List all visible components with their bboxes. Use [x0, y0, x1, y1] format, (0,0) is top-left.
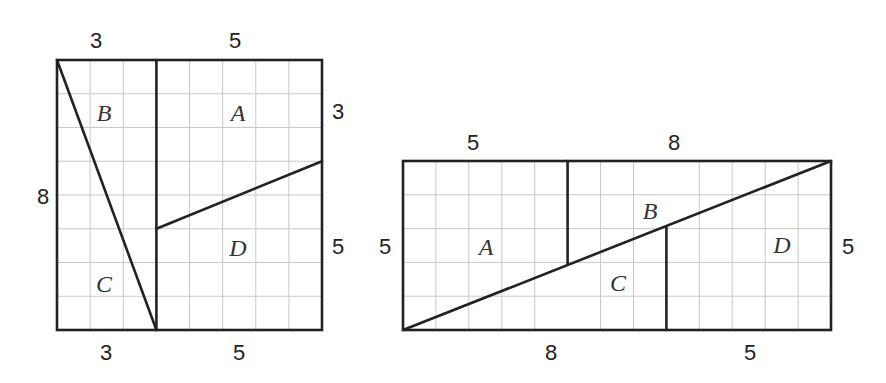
piece-label-d-right: D: [772, 232, 790, 258]
right-rectangle-diagonal: [403, 161, 831, 330]
dissection-diagram: B A C D 3 5 3 5 8 3 5: [0, 0, 886, 383]
piece-label-b-right: B: [643, 198, 658, 224]
rect-top-label-5: 5: [467, 130, 479, 155]
piece-label-a-left: A: [229, 100, 246, 126]
rect-left-label-5: 5: [379, 234, 391, 259]
piece-label-c-left: C: [96, 271, 113, 297]
left-bottom-label-3: 3: [100, 340, 112, 365]
right-side-label-3: 3: [332, 99, 344, 124]
rect-bottom-label-5: 5: [744, 340, 756, 365]
piece-label-d-left: D: [228, 235, 246, 261]
piece-label-a-right: A: [477, 234, 494, 260]
piece-label-c-right: C: [610, 270, 627, 296]
piece-label-b-left: B: [97, 100, 112, 126]
rect-right-label-5: 5: [842, 234, 854, 259]
left-square: B A C D 3 5 3 5 8 3 5: [37, 28, 344, 365]
right-rectangle: A B C D 5 8 8 5 5 5: [379, 130, 854, 365]
left-side-label-8: 8: [37, 184, 49, 209]
rect-bottom-label-8: 8: [545, 340, 557, 365]
left-top-label-5: 5: [229, 28, 241, 53]
left-bottom-label-5: 5: [233, 340, 245, 365]
left-top-label-3: 3: [90, 28, 102, 53]
right-side-label-5: 5: [332, 234, 344, 259]
rect-top-label-8: 8: [668, 130, 680, 155]
